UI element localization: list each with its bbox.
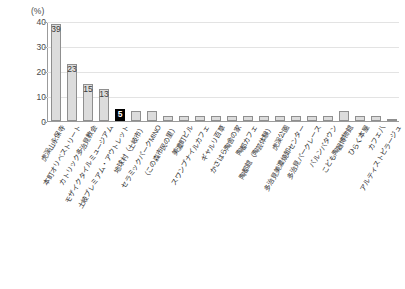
y-axis-tick-label: 30 <box>16 42 46 52</box>
bar[interactable] <box>227 116 238 121</box>
bar[interactable] <box>387 119 398 122</box>
bar-slot <box>275 21 286 121</box>
y-axis-tick-mark <box>44 122 47 123</box>
bar-slot: 13 <box>99 21 110 121</box>
bar[interactable] <box>211 116 222 121</box>
y-axis-unit-label: (%) <box>31 6 44 16</box>
bar[interactable] <box>259 116 270 121</box>
bar[interactable] <box>163 116 174 121</box>
bar-value-label: 5 <box>115 109 126 119</box>
bar-slot: 23 <box>67 21 78 121</box>
bar-slot <box>323 21 334 121</box>
bar-slot <box>131 21 142 121</box>
bar[interactable] <box>179 116 190 121</box>
bar-slot <box>307 21 318 121</box>
bar[interactable] <box>147 111 158 121</box>
bar[interactable] <box>131 111 142 121</box>
bar[interactable] <box>195 116 206 121</box>
bar[interactable] <box>275 116 286 121</box>
bar[interactable] <box>371 116 382 121</box>
y-axis-tick-label: 0 <box>16 117 46 127</box>
bar[interactable] <box>355 116 366 121</box>
y-axis-tick-label: 40 <box>16 17 46 27</box>
bar-slot <box>147 21 158 121</box>
bar[interactable] <box>243 116 254 121</box>
bar-slot: 39 <box>51 21 62 121</box>
bar-slot <box>179 21 190 121</box>
y-axis-tick-label: 20 <box>16 67 46 77</box>
bar-slot: 15 <box>83 21 94 121</box>
bar-slot <box>243 21 254 121</box>
bar-slot: 5 <box>115 21 126 121</box>
bar[interactable] <box>51 24 62 122</box>
bar-chart: (%) 010203040 392315135 虎渓山永保寺本町オリベストリート… <box>0 0 405 289</box>
x-axis-line <box>47 121 399 122</box>
plot-area: 010203040 392315135 <box>47 22 399 122</box>
x-axis-category-labels: 虎渓山永保寺本町オリベストリートカトリック多治見教会モザイクタイルミュージアム土… <box>47 124 399 284</box>
bar-value-label: 39 <box>51 24 62 34</box>
bar-value-label: 13 <box>99 89 110 99</box>
bar[interactable] <box>307 116 318 121</box>
bar-slot <box>291 21 302 121</box>
bar-value-label: 15 <box>83 84 94 94</box>
bar-slot <box>355 21 366 121</box>
bar-slot <box>339 21 350 121</box>
bar-slot <box>371 21 382 121</box>
bar-slot <box>387 21 398 121</box>
bar-slot <box>195 21 206 121</box>
bar-slot <box>211 21 222 121</box>
bar[interactable] <box>323 116 334 121</box>
bar-slot <box>163 21 174 121</box>
bar-series: 392315135 <box>47 21 399 121</box>
bar[interactable] <box>291 116 302 121</box>
bar-slot <box>259 21 270 121</box>
bar-slot <box>227 21 238 121</box>
y-axis-tick-label: 10 <box>16 92 46 102</box>
bar-value-label: 23 <box>67 64 78 74</box>
bar[interactable] <box>339 111 350 121</box>
